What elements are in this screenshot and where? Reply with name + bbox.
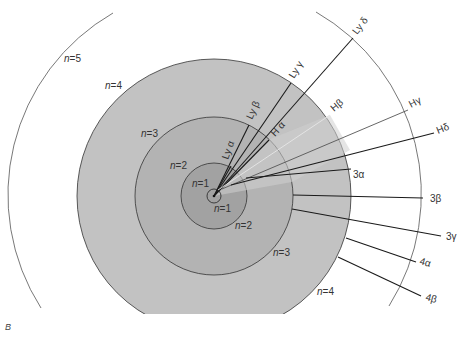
line-4-alpha (346, 238, 416, 262)
line-4-beta (338, 257, 421, 296)
label-n2-right: n=2 (235, 220, 252, 231)
label-4-alpha: 4α (418, 255, 432, 269)
label-n1-outer: n=1 (214, 203, 231, 214)
label-h-beta: Hβ (328, 97, 345, 114)
label-n3-left: n=3 (141, 128, 158, 139)
label-ly-delta: Ly δ (350, 15, 370, 37)
panel-label: B (5, 322, 11, 332)
label-n4-left: n=4 (105, 80, 122, 91)
nucleus-dot (213, 195, 216, 198)
hydrogen-transition-diagram: n=5 n=4 n=4 n=3 n=3 n=2 n=2 n=1 n=1 Ly α… (0, 0, 463, 337)
label-3-gamma: 3γ (446, 231, 457, 242)
label-3-beta: 3β (430, 193, 442, 204)
label-4-beta: 4β (424, 291, 438, 305)
label-h-gamma: Hγ (407, 94, 423, 109)
label-3-alpha: 3α (353, 169, 365, 180)
label-n3-right: n=3 (273, 247, 290, 258)
label-n1-inner: n=1 (192, 178, 209, 189)
label-ly-gamma: Ly γ (286, 59, 305, 80)
label-n4-right: n=4 (317, 286, 334, 297)
label-n5: n=5 (64, 53, 81, 64)
label-h-delta: Hδ (435, 121, 451, 136)
label-n2-left: n=2 (170, 160, 187, 171)
